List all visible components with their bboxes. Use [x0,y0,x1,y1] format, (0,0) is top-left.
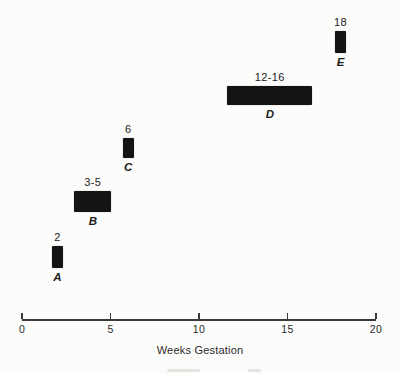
x-axis-title: Weeks Gestation [157,344,244,356]
scan-artifact [167,369,200,372]
event-letter-label-B: B [89,215,97,227]
x-axis-tick-10 [198,313,200,319]
plot-area: 2A3-5B6C12-16D18E [0,0,401,374]
x-axis-tick-label-0: 0 [19,324,25,335]
x-axis-line [22,319,376,321]
x-axis-tick-5 [110,313,112,319]
event-weeks-label-C: 6 [125,123,132,135]
event-bar-B [74,191,111,212]
x-axis-tick-label-5: 5 [107,324,113,335]
event-letter-label-D: D [266,108,274,120]
x-axis-tick-0 [21,313,23,319]
x-axis-tick-label-10: 10 [193,324,205,335]
event-letter-label-C: C [124,161,132,173]
x-axis-tick-label-20: 20 [370,324,382,335]
gestation-timeline-figure: 2A3-5B6C12-16D18E 05101520 Weeks Gestati… [0,0,401,374]
event-letter-label-E: E [337,56,345,68]
event-weeks-label-D: 12-16 [255,71,285,83]
event-weeks-label-B: 3-5 [84,176,101,188]
event-letter-label-A: A [53,271,61,283]
event-bar-A [52,246,63,268]
scan-artifact [248,369,261,372]
x-axis-tick-15 [287,313,289,319]
event-weeks-label-E: 18 [334,16,347,28]
event-bar-E [335,31,346,53]
event-weeks-label-A: 2 [54,231,61,243]
event-bar-D [227,86,312,105]
x-axis-tick-label-15: 15 [281,324,293,335]
event-bar-C [123,138,134,158]
x-axis-tick-20 [375,313,377,319]
